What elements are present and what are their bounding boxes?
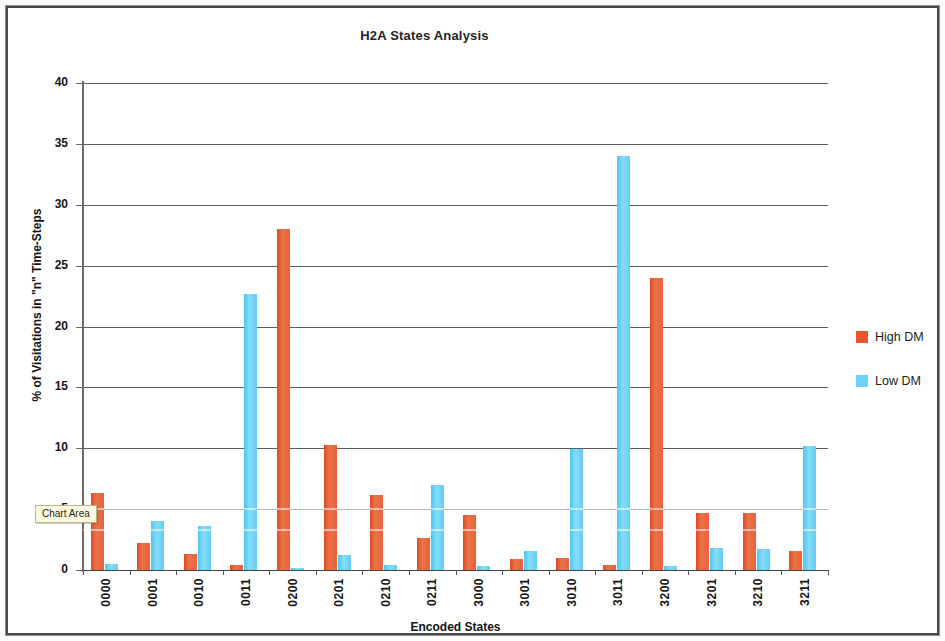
y-axis-tick-label: 40 xyxy=(22,75,68,89)
y-axis-tick-label: 35 xyxy=(22,136,68,150)
x-axis-tick xyxy=(595,570,596,575)
bar-high-dm-0201 xyxy=(324,445,337,570)
bar-high-dm-3010 xyxy=(556,558,569,570)
gridline xyxy=(83,327,828,328)
bar-low-dm-0210 xyxy=(384,565,397,570)
x-axis-tick-label: 0200 xyxy=(286,578,300,607)
x-axis-tick-label: 3010 xyxy=(565,578,579,607)
x-axis-tick-label: 3200 xyxy=(658,578,672,607)
x-axis-tick xyxy=(316,570,317,575)
bar-high-dm-0001 xyxy=(137,543,150,570)
gridline xyxy=(83,509,828,510)
legend-swatch-icon xyxy=(856,331,868,343)
bar-low-dm-3010 xyxy=(570,449,583,570)
x-axis-tick xyxy=(362,570,363,575)
scan-artifact xyxy=(83,529,828,531)
bar-low-dm-0000 xyxy=(105,564,118,570)
x-axis-tick xyxy=(549,570,550,575)
y-axis-tick-label: 15 xyxy=(22,379,68,393)
legend-swatch-icon xyxy=(856,375,868,387)
bar-low-dm-0201 xyxy=(338,555,351,570)
x-axis-tick xyxy=(688,570,689,575)
bar-low-dm-3211 xyxy=(803,446,816,570)
x-axis-tick-label: 3001 xyxy=(518,578,532,607)
x-axis-tick xyxy=(176,570,177,575)
x-axis-tick-label: 0001 xyxy=(146,578,160,607)
x-axis-tick-label: 3210 xyxy=(751,578,765,607)
x-axis-tick xyxy=(502,570,503,575)
bar-low-dm-3201 xyxy=(710,548,723,570)
page-frame-border: H2A States Analysis % of Visitations in … xyxy=(6,6,939,635)
x-axis-tick xyxy=(409,570,410,575)
legend-label: High DM xyxy=(875,330,924,344)
chart-legend: High DMLow DM xyxy=(856,326,945,414)
gridline xyxy=(83,387,828,388)
x-axis-tick-label: 0211 xyxy=(425,578,439,606)
x-axis-tick xyxy=(269,570,270,575)
bar-low-dm-3001 xyxy=(524,551,537,570)
chart-title: H2A States Analysis xyxy=(8,28,841,43)
x-axis-tick xyxy=(83,570,84,575)
legend-item-high-dm: High DM xyxy=(856,326,945,348)
bar-high-dm-3211 xyxy=(789,551,802,570)
plot-area xyxy=(83,83,828,570)
x-axis-tick-label: 0210 xyxy=(379,578,393,607)
x-axis-tick xyxy=(642,570,643,575)
bar-high-dm-3201 xyxy=(696,513,709,570)
bar-low-dm-0211 xyxy=(431,485,444,570)
bar-high-dm-0210 xyxy=(370,495,383,570)
bar-low-dm-0001 xyxy=(151,521,164,570)
bar-low-dm-0010 xyxy=(198,526,211,570)
x-axis-tick-label: 3201 xyxy=(705,578,719,607)
bar-high-dm-3200 xyxy=(650,278,663,570)
legend-item-low-dm: Low DM xyxy=(856,370,945,392)
bar-low-dm-3200 xyxy=(664,566,677,570)
bar-high-dm-3011 xyxy=(603,565,616,570)
bar-high-dm-3210 xyxy=(743,513,756,570)
y-axis-tick-label: 10 xyxy=(22,440,68,454)
x-axis-tick xyxy=(828,570,829,575)
gridline xyxy=(83,448,828,449)
x-axis-tick-label: 0011 xyxy=(239,578,253,606)
bar-high-dm-0211 xyxy=(417,538,430,570)
bar-high-dm-3000 xyxy=(463,515,476,570)
x-axis-tick-label: 3211 xyxy=(798,578,812,606)
x-axis-tick xyxy=(223,570,224,575)
y-axis-tick-label: 30 xyxy=(22,197,68,211)
y-axis-tick-label: 25 xyxy=(22,258,68,272)
x-axis-tick xyxy=(130,570,131,575)
bar-high-dm-0011 xyxy=(230,565,243,570)
x-axis-title: Encoded States xyxy=(83,620,828,634)
bar-high-dm-0010 xyxy=(184,554,197,570)
x-axis-tick-label: 0201 xyxy=(332,578,346,607)
y-axis-tick-label: 0 xyxy=(22,562,68,576)
x-axis-tick-label: 0010 xyxy=(192,578,206,607)
chart-area-tooltip: Chart Area xyxy=(35,505,97,523)
legend-label: Low DM xyxy=(875,374,921,388)
x-axis-tick-label: 0000 xyxy=(99,578,113,607)
gridline xyxy=(83,266,828,267)
bar-low-dm-3011 xyxy=(617,156,630,570)
bar-high-dm-3001 xyxy=(510,559,523,570)
bar-low-dm-0011 xyxy=(244,294,257,570)
y-axis-tick-label: 20 xyxy=(22,319,68,333)
gridline xyxy=(83,83,828,84)
bar-low-dm-3000 xyxy=(477,566,490,570)
bar-low-dm-0200 xyxy=(291,568,304,570)
x-axis-tick xyxy=(781,570,782,575)
x-axis-tick xyxy=(735,570,736,575)
x-axis-tick-label: 3011 xyxy=(611,578,625,606)
scanned-page: H2A States Analysis % of Visitations in … xyxy=(0,0,945,641)
gridline xyxy=(83,205,828,206)
bar-high-dm-0200 xyxy=(277,229,290,570)
x-axis-tick-label: 3000 xyxy=(472,578,486,607)
bar-low-dm-3210 xyxy=(757,549,770,570)
gridline xyxy=(83,144,828,145)
x-axis-tick xyxy=(456,570,457,575)
